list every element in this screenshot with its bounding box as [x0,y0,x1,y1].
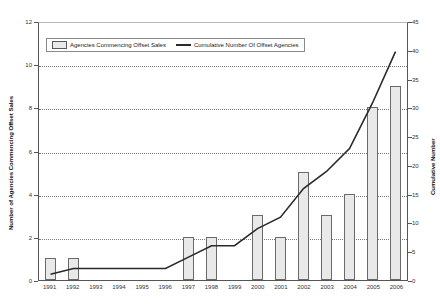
y-tickmark-right [408,252,412,253]
y-tick-right-15: 15 [412,192,438,198]
x-tick-2006: 2006 [385,284,408,290]
x-tick-1996: 1996 [154,284,177,290]
y-tick-left-8: 8 [2,105,32,111]
legend-item-bars: Agencies Commencing Offset Sales [52,41,166,49]
x-tick-2000: 2000 [246,284,269,290]
y-tick-right-0: 0 [412,278,438,284]
x-tick-2005: 2005 [362,284,385,290]
legend-bar-swatch-icon [52,41,67,49]
legend-line-label: Cumulative Number Of Offset Agencies [194,42,299,48]
y-tick-left-4: 4 [2,192,32,198]
x-tick-1992: 1992 [61,284,84,290]
y-tick-left-0: 0 [2,278,32,284]
cumulative-line-path [50,52,395,275]
y-tickmark-right [408,51,412,52]
x-tick-1997: 1997 [177,284,200,290]
y-tick-left-2: 2 [2,235,32,241]
y-tickmark-right [408,108,412,109]
y-tick-left-12: 12 [2,19,32,25]
x-tick-1998: 1998 [200,284,223,290]
x-tick-1991: 1991 [38,284,61,290]
y-tick-right-35: 35 [412,77,438,83]
x-tick-2004: 2004 [339,284,362,290]
y-tick-left-10: 10 [2,62,32,68]
y-tickmark-right [408,80,412,81]
y-tick-right-40: 40 [412,48,438,54]
x-tick-2001: 2001 [269,284,292,290]
y-tickmark-right [408,22,412,23]
y-tick-right-30: 30 [412,105,438,111]
x-tick-1994: 1994 [107,284,130,290]
chart-container: Number of Agencies Commencing Offset Sal… [0,0,440,308]
y-axis-left-title: Number of Agencies Commencing Offset Sal… [8,96,14,230]
y-tickmark-left [34,281,38,282]
y-tick-right-45: 45 [412,19,438,25]
y-tickmark-right [408,137,412,138]
plot-area [38,22,408,281]
y-tick-right-10: 10 [412,220,438,226]
chart-legend: Agencies Commencing Offset Sales Cumulat… [46,38,305,52]
x-tick-2002: 2002 [292,284,315,290]
x-axis-labels: 1991199219931994199519961997199819992000… [38,284,408,290]
x-tick-1999: 1999 [223,284,246,290]
y-tickmark-right [408,166,412,167]
y-tick-right-25: 25 [412,134,438,140]
x-tick-1995: 1995 [131,284,154,290]
x-tick-1993: 1993 [84,284,107,290]
y-tickmark-right [408,195,412,196]
y-tick-right-5: 5 [412,249,438,255]
legend-bar-label: Agencies Commencing Offset Sales [70,42,166,48]
y-tickmark-right [408,281,412,282]
y-tick-left-6: 6 [2,149,32,155]
legend-item-line: Cumulative Number Of Offset Agencies [176,42,299,48]
y-tick-right-20: 20 [412,163,438,169]
y-tickmark-right [408,223,412,224]
x-tick-2003: 2003 [316,284,339,290]
legend-line-swatch-icon [176,44,191,46]
cumulative-line-series [39,23,407,280]
